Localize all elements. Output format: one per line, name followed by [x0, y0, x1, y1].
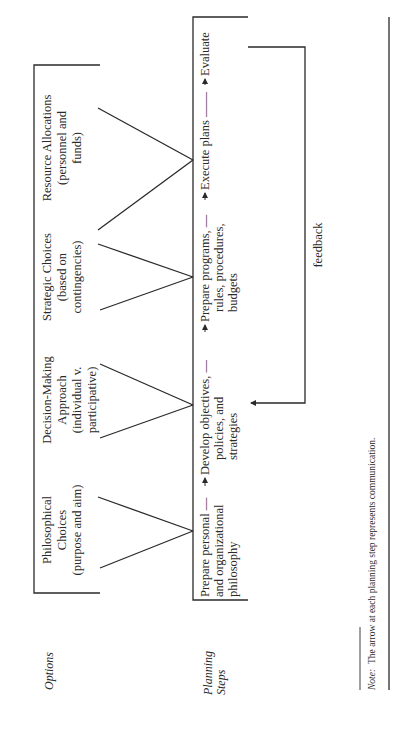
option-decision-making: Decision-Making Approach (individual v. …: [40, 356, 99, 444]
svg-text:(personnel and: (personnel and: [55, 110, 69, 185]
svg-text:Prepare programs, —: Prepare programs, —: [198, 214, 212, 322]
footnote: Note: The arrow at each planning step re…: [367, 438, 377, 691]
svg-text:Note:: Note:: [367, 669, 377, 691]
svg-text:funds): funds): [70, 132, 84, 164]
step-prepare-programs: Prepare programs, — rules, procedures, b…: [198, 214, 240, 322]
planning-row-label-line2: Steps: [214, 669, 228, 695]
svg-text:policies, and: policies, and: [212, 396, 226, 460]
options-row-label: Options: [42, 652, 56, 690]
step-execute-plans: Execute plans ——: [198, 92, 212, 190]
option-strategic: Strategic Choices (based on contingencie…: [40, 233, 84, 321]
svg-text:contingencies): contingencies): [70, 241, 84, 314]
svg-text:Philosophical: Philosophical: [40, 495, 54, 564]
note-text: The arrow at each planning step represen…: [367, 438, 377, 664]
step-develop-objectives: Develop objectives, — policies, and stra…: [198, 360, 240, 475]
svg-text:philosophy: philosophy: [226, 541, 240, 597]
svg-text:participative): participative): [85, 367, 99, 434]
note-label: Note:: [367, 669, 377, 691]
planning-row-label-line1: Planning: [201, 651, 215, 696]
svg-text:Execute plans ——: Execute plans ——: [198, 92, 212, 190]
svg-text:Evaluate: Evaluate: [198, 32, 212, 76]
svg-text:(individual v.: (individual v.: [70, 367, 84, 434]
option-resource-allocations: Resource Allocations (personnel and fund…: [40, 95, 84, 202]
svg-text:Approach: Approach: [55, 375, 69, 425]
svg-text:rules, procedures,: rules, procedures,: [212, 223, 226, 312]
planning-diagram: Options Planning Steps Philosophical Cho…: [0, 0, 405, 732]
svg-text:(based on: (based on: [55, 252, 69, 301]
v-connector-strategic: [98, 244, 193, 310]
svg-text:Prepare personal —: Prepare personal —: [198, 497, 212, 597]
svg-text:Resource Allocations: Resource Allocations: [40, 95, 54, 202]
step-evaluate: Evaluate: [198, 32, 212, 76]
svg-text:Strategic Choices: Strategic Choices: [40, 233, 54, 321]
step-prepare-philosophy: Prepare personal — and organizational ph…: [198, 497, 240, 597]
svg-text:(purpose and aim): (purpose and aim): [70, 485, 84, 576]
svg-text:Decision-Making: Decision-Making: [40, 356, 54, 444]
v-connector-philosophical: [98, 497, 193, 568]
feedback-label: feedback: [311, 222, 325, 268]
svg-text:budgets: budgets: [226, 273, 240, 312]
v-connector-resource: [98, 108, 193, 230]
svg-text:Choices: Choices: [55, 510, 69, 550]
feedback-arrow: [248, 47, 305, 403]
svg-text:Develop objectives, —: Develop objectives, —: [198, 360, 212, 475]
option-philosophical: Philosophical Choices (purpose and aim): [40, 485, 84, 576]
v-connector-decision: [100, 364, 193, 438]
svg-text:strategies: strategies: [226, 413, 240, 460]
svg-text:and organizational: and organizational: [212, 504, 226, 597]
